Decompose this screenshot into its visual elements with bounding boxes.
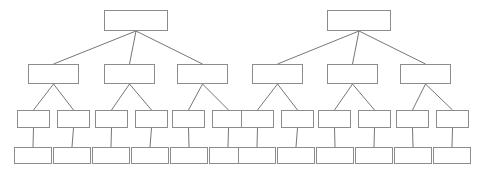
node-congregacion[interactable]: [394, 147, 432, 164]
connector-rector-to-congregacion: [72, 128, 74, 147]
connector-rector-to-congregacion: [189, 128, 190, 147]
connector-obispo-to-rector: [258, 84, 278, 110]
connector-rector-to-congregacion: [33, 128, 34, 147]
connector-rector-to-congregacion: [257, 128, 258, 147]
node-rector[interactable]: [57, 110, 90, 128]
node-congregacion[interactable]: [53, 147, 91, 164]
connector-obispo-to-rector: [34, 84, 54, 110]
connector-arzobispo-to-obispo: [130, 31, 137, 64]
node-congregacion[interactable]: [277, 147, 315, 164]
node-rector[interactable]: [135, 110, 168, 128]
node-obispo[interactable]: [28, 64, 79, 84]
node-rector[interactable]: [358, 110, 391, 128]
node-rector[interactable]: [318, 110, 351, 128]
connector-obispo-to-rector: [278, 84, 298, 110]
node-rector[interactable]: [172, 110, 205, 128]
connector-arzobispo-to-obispo: [353, 31, 360, 64]
connector-arzobispo-to-obispo: [278, 31, 360, 64]
node-congregacion[interactable]: [131, 147, 169, 164]
connector-obispo-to-rector: [426, 84, 453, 110]
node-congregacion[interactable]: [316, 147, 354, 164]
connector-rector-to-congregacion: [296, 128, 298, 147]
diagram-canvas: [0, 0, 477, 172]
node-congregacion[interactable]: [238, 147, 276, 164]
node-rector[interactable]: [396, 110, 429, 128]
node-congregacion[interactable]: [433, 147, 471, 164]
connector-rector-to-congregacion: [150, 128, 152, 147]
connector-obispo-to-rector: [112, 84, 130, 110]
connector-arzobispo-to-obispo: [54, 31, 137, 64]
connector-obispo-to-rector: [54, 84, 74, 110]
node-obispo[interactable]: [252, 64, 303, 84]
connector-rector-to-congregacion: [374, 128, 375, 147]
connector-arzobispo-to-obispo: [136, 31, 203, 64]
node-rector[interactable]: [17, 110, 50, 128]
connector-obispo-to-rector: [353, 84, 375, 110]
node-rector[interactable]: [436, 110, 469, 128]
node-obispo[interactable]: [104, 64, 155, 84]
connector-obispo-to-rector: [130, 84, 152, 110]
node-congregacion[interactable]: [355, 147, 393, 164]
connector-rector-to-congregacion: [413, 128, 414, 147]
connector-rector-to-congregacion: [452, 128, 453, 147]
node-congregacion[interactable]: [170, 147, 208, 164]
node-arzobispo[interactable]: [327, 10, 391, 31]
node-congregacion[interactable]: [92, 147, 130, 164]
connector-rector-to-congregacion: [335, 128, 336, 147]
connector-obispo-to-rector: [335, 84, 353, 110]
node-congregacion[interactable]: [14, 147, 52, 164]
node-obispo[interactable]: [327, 64, 378, 84]
node-obispo[interactable]: [177, 64, 228, 84]
connector-obispo-to-rector: [189, 84, 203, 110]
node-rector[interactable]: [281, 110, 314, 128]
node-rector[interactable]: [95, 110, 128, 128]
connector-arzobispo-to-obispo: [359, 31, 426, 64]
connector-obispo-to-rector: [203, 84, 229, 110]
node-rector[interactable]: [241, 110, 274, 128]
node-obispo[interactable]: [400, 64, 451, 84]
connector-rector-to-congregacion: [111, 128, 112, 147]
connector-obispo-to-rector: [413, 84, 426, 110]
connector-rector-to-congregacion: [228, 128, 229, 147]
node-arzobispo[interactable]: [104, 10, 168, 31]
